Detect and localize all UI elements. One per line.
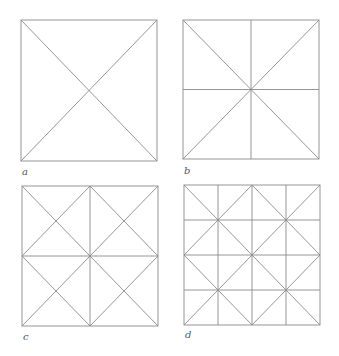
panel-a — [21, 20, 157, 161]
panel-label-b: b — [184, 166, 190, 176]
panel-c — [22, 186, 158, 326]
panel-label-a: a — [22, 167, 28, 177]
subdivision-figure — [0, 0, 339, 356]
panel-label-d: d — [185, 330, 191, 340]
panel-label-c: c — [23, 332, 29, 342]
panel-d — [184, 185, 320, 325]
panel-b — [183, 20, 319, 159]
